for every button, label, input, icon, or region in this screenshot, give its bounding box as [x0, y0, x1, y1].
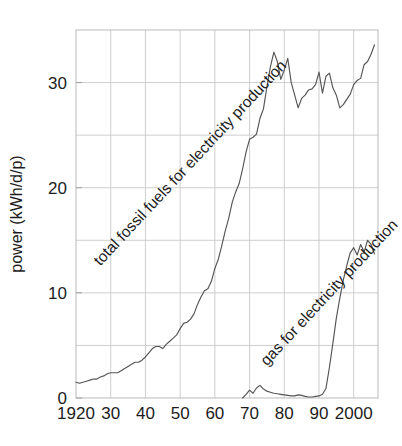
- y-tick-label: 20: [48, 179, 67, 198]
- x-tick-label: 80: [275, 404, 294, 423]
- chart-svg: 1920304050607080902000 0102030 total fos…: [0, 0, 402, 446]
- x-tick-label: 50: [171, 404, 190, 423]
- x-tick-label: 30: [101, 404, 120, 423]
- y-tick-label: 30: [48, 74, 67, 93]
- y-axis-title-text: power (kWh/d/p): [8, 155, 25, 272]
- chart-figure: 1920304050607080902000 0102030 total fos…: [0, 0, 402, 446]
- x-tick-label: 90: [310, 404, 329, 423]
- y-axis-title: power (kWh/d/p): [8, 155, 25, 272]
- x-axis-ticks: 1920304050607080902000: [57, 404, 373, 423]
- y-tick-label: 0: [58, 389, 67, 408]
- x-tick-label: 60: [205, 404, 224, 423]
- y-tick-label: 10: [48, 284, 67, 303]
- x-tick-label: 2000: [335, 404, 373, 423]
- x-tick-label: 70: [240, 404, 259, 423]
- x-tick-label: 40: [136, 404, 155, 423]
